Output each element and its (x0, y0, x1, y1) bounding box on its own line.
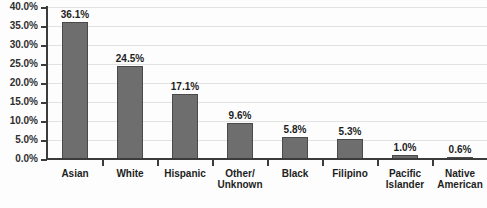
chart-title (0, 0, 487, 1)
bar (62, 22, 88, 159)
x-axis-tick (432, 160, 434, 166)
y-axis-tick-label: 30.0% (0, 40, 38, 50)
y-axis-tick-label: 0.0% (0, 154, 38, 164)
category-label-line: Unknown (210, 179, 270, 190)
bar (337, 139, 363, 159)
bar (172, 94, 198, 159)
bar-value-label: 5.8% (267, 124, 323, 135)
category-label: PacificIslander (375, 168, 435, 190)
category-label: Black (265, 168, 325, 179)
category-label-line: American (430, 179, 487, 190)
category-label-line: Islander (375, 179, 435, 190)
gridline (47, 45, 487, 46)
x-axis-tick (377, 160, 379, 166)
gridline (47, 7, 487, 8)
y-axis-tick-label: 5.0% (0, 135, 38, 145)
category-label: Filipino (320, 168, 380, 179)
y-axis-tick-label: 20.0% (0, 78, 38, 88)
bar-value-label: 0.6% (432, 144, 487, 155)
category-label-line: Native (430, 168, 487, 179)
category-label: Other/Unknown (210, 168, 270, 190)
category-label: NativeAmerican (430, 168, 487, 190)
gridline (47, 26, 487, 27)
bar-value-label: 1.0% (377, 142, 433, 153)
category-label-line: White (100, 168, 160, 179)
category-label-line: Asian (45, 168, 105, 179)
category-label-line: Hispanic (155, 168, 215, 179)
gridline (47, 102, 487, 103)
bar (282, 137, 308, 159)
y-axis-tick-label: 35.0% (0, 21, 38, 31)
bar-value-label: 5.3% (322, 126, 378, 137)
x-axis-tick (157, 160, 159, 166)
gridline (47, 121, 487, 122)
category-label-line: Pacific (375, 168, 435, 179)
gridline (47, 64, 487, 65)
y-axis-tick-label: 15.0% (0, 97, 38, 107)
y-axis-tick-label: 10.0% (0, 116, 38, 126)
x-axis-tick (267, 160, 269, 166)
y-axis-tick-label: 40.0% (0, 2, 38, 12)
bar-value-label: 17.1% (157, 81, 213, 92)
x-axis-tick (102, 160, 104, 166)
bar (117, 66, 143, 159)
bar (227, 123, 253, 159)
bar-value-label: 36.1% (47, 9, 103, 20)
gridline (47, 140, 487, 141)
category-label-line: Filipino (320, 168, 380, 179)
x-axis-tick (322, 160, 324, 166)
gridline (47, 83, 487, 84)
category-label: Hispanic (155, 168, 215, 179)
category-label-line: Black (265, 168, 325, 179)
category-label: White (100, 168, 160, 179)
bar-value-label: 9.6% (212, 110, 268, 121)
x-axis-tick (212, 160, 214, 166)
y-axis-tick-label: 25.0% (0, 59, 38, 69)
bar-chart: 0.0%5.0%10.0%15.0%20.0%25.0%30.0%35.0%40… (0, 0, 487, 208)
y-axis-line (46, 6, 48, 160)
category-label: Asian (45, 168, 105, 179)
category-label-line: Other/ (210, 168, 270, 179)
bar-value-label: 24.5% (102, 53, 158, 64)
